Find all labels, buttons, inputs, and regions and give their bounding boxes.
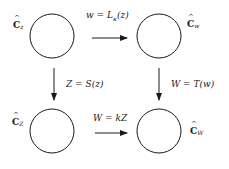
label-part: w = L bbox=[86, 10, 113, 20]
node-label-Cz: Cz bbox=[13, 21, 23, 30]
subscript: Z bbox=[19, 120, 23, 127]
circle-Cz bbox=[30, 14, 74, 58]
circle-CW bbox=[137, 109, 181, 153]
edge-label-top: w = Lκ(z) bbox=[86, 11, 129, 22]
edge-label-bottom: W = kZ bbox=[93, 114, 127, 123]
set-symbol: C bbox=[190, 127, 197, 136]
subscript: W bbox=[197, 129, 203, 136]
subscript: z bbox=[20, 23, 23, 30]
set-symbol: C bbox=[12, 118, 19, 127]
node-label-CW: CW bbox=[190, 127, 203, 136]
node-label-Cw: Cw bbox=[187, 20, 199, 29]
set-symbol: C bbox=[13, 21, 20, 30]
edge-label-right: W = T(w) bbox=[171, 80, 214, 89]
circle-Cw bbox=[137, 14, 181, 58]
node-label-CZ: CZ bbox=[12, 118, 23, 127]
circle-CZ bbox=[30, 109, 74, 153]
label-part: (z) bbox=[117, 10, 129, 20]
set-symbol: C bbox=[187, 20, 194, 29]
edge-label-left: Z = S(z) bbox=[66, 80, 103, 89]
subscript: w bbox=[194, 22, 199, 29]
